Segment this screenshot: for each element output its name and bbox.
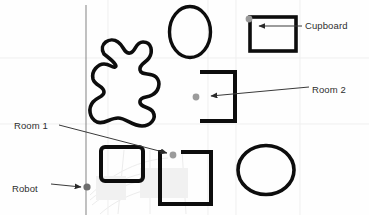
blob-obstacle-shape [90, 40, 159, 126]
ellipse-bottom-right [238, 146, 294, 195]
room2-c-shape [202, 72, 235, 121]
room2-marker [193, 94, 200, 101]
room1-marker [170, 152, 177, 159]
label-cupboard: Cupboard [305, 20, 348, 31]
label-room2: Room 2 [312, 84, 346, 95]
room2-leader-line [211, 87, 309, 96]
label-room1: Room 1 [14, 120, 48, 131]
robot-leader-line [51, 184, 81, 187]
ellipse-top [170, 7, 211, 58]
cupboard-rect [250, 17, 296, 51]
room1-square [160, 152, 211, 204]
rounded-rect-left [101, 147, 143, 181]
label-robot-line1: Robot [12, 183, 42, 194]
label-robot-origin: Robot (origin) [12, 161, 42, 215]
cupboard-marker [246, 16, 253, 23]
robot-environment-map: Cupboard Room 2 Room 1 Robot (origin) [0, 0, 369, 215]
map-geometry-layer [0, 0, 369, 215]
robot-origin-marker [83, 183, 90, 190]
